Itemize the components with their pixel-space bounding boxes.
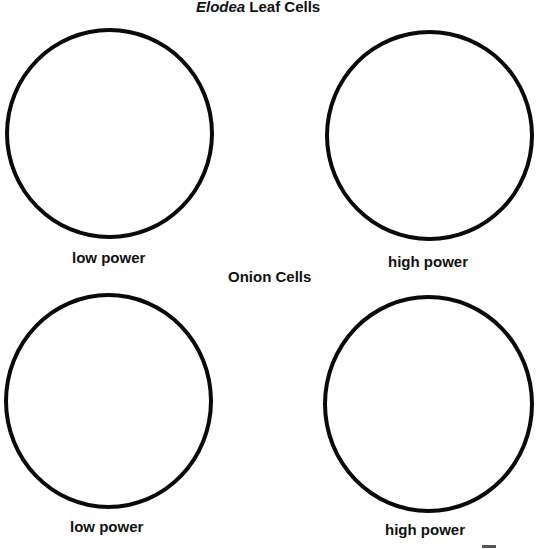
elodea-low-power-circle: [5, 28, 214, 239]
onion-low-power-label: low power: [70, 518, 143, 535]
page-corner-mark: [482, 545, 496, 548]
elodea-title-italic: Elodea: [196, 0, 245, 15]
onion-high-power-label: high power: [385, 521, 465, 538]
onion-title: Onion Cells: [228, 268, 311, 285]
elodea-low-power-label: low power: [72, 249, 145, 266]
elodea-title: Elodea Leaf Cells: [196, 0, 320, 15]
elodea-high-power-label: high power: [388, 253, 468, 270]
elodea-high-power-circle: [325, 30, 534, 241]
onion-low-power-circle: [4, 293, 213, 509]
elodea-title-rest: Leaf Cells: [245, 0, 320, 15]
onion-high-power-circle: [323, 295, 534, 513]
